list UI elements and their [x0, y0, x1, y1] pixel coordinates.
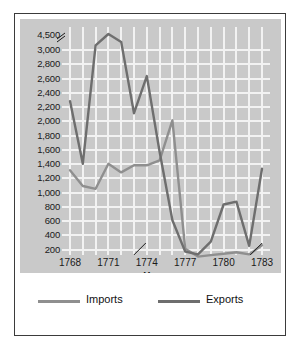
y-axis-tick-label: 2,800: [37, 59, 60, 68]
y-axis-tick-label: 800: [45, 202, 60, 211]
legend-swatch-line: [158, 300, 200, 303]
legend-swatch-line: [38, 300, 80, 303]
y-axis-tick-label: 1,800: [37, 131, 60, 140]
x-axis-tick-labels: 176817711774177717801783: [62, 257, 270, 271]
y-axis-tick-label: 3,000: [37, 45, 60, 54]
x-axis-tick-label: 1780: [212, 257, 234, 268]
series-lines: [62, 27, 270, 255]
chart-annotation-label: Treaty of Paris: [210, 271, 271, 273]
chart-legend: ImportsExports: [20, 280, 281, 330]
y-axis-tick-label: 600: [45, 216, 60, 225]
y-axis-tick-label: 400: [45, 230, 60, 239]
legend-label: Exports: [206, 293, 243, 305]
chart-annotation-label: Coercive Acts: [95, 271, 153, 273]
chart-annotations: Year Coercive ActsTreaty of Paris: [20, 271, 281, 273]
x-axis-tick-label: 1783: [251, 257, 273, 268]
y-axis-tick-labels: 4,5003,0002,8002,6002,4002,2002,0001,800…: [20, 27, 60, 255]
chart-figure: Pounds sterling (in thousands) 4,5003,00…: [14, 13, 286, 336]
chart-plot-panel: Pounds sterling (in thousands) 4,5003,00…: [20, 19, 281, 273]
chart-plot-area: [62, 27, 270, 255]
y-axis-tick-label: 1,200: [37, 173, 60, 182]
x-axis-tick-label: 1774: [136, 257, 158, 268]
legend-label: Imports: [86, 293, 123, 305]
y-axis-tick-label: 2,200: [37, 102, 60, 111]
x-axis-tick-label: 1771: [97, 257, 119, 268]
y-axis-tick-label: 1,400: [37, 159, 60, 168]
y-axis-tick-label: 2,000: [37, 116, 60, 125]
y-axis-tick-label: 1,000: [37, 188, 60, 197]
y-axis-tick-label: 200: [45, 245, 60, 254]
x-axis-tick-label: 1777: [174, 257, 196, 268]
x-axis-tick-label: 1768: [59, 257, 81, 268]
y-axis-tick-label: 1,600: [37, 145, 60, 154]
y-axis-tick-label: 2,400: [37, 88, 60, 97]
y-axis-tick-label: 2,600: [37, 74, 60, 83]
